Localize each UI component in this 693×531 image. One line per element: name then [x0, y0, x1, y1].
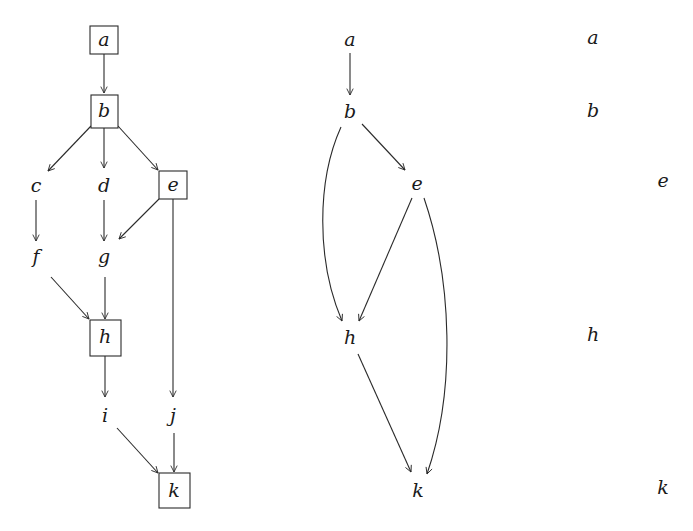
node-label-g: g — [98, 245, 110, 267]
reduced-graph: a b e h k — [323, 28, 447, 501]
edge-b-e — [362, 124, 405, 170]
node-label-e: e — [411, 172, 422, 194]
level-label-h: h — [587, 323, 599, 345]
node-label-c: c — [31, 174, 42, 196]
edge-f-h — [51, 277, 89, 319]
node-label-b: b — [344, 100, 356, 122]
node-label-k: k — [168, 479, 180, 501]
node-label-e: e — [167, 173, 178, 195]
level-label-e: e — [657, 169, 668, 191]
edge-h-k — [358, 354, 411, 472]
node-label-k: k — [412, 479, 424, 501]
full-graph: a b c d e f g h i j k — [30, 26, 190, 508]
reduced-graph-edges — [323, 53, 447, 474]
node-label-h: h — [99, 325, 111, 347]
node-label-a: a — [344, 28, 355, 50]
level-label-a: a — [587, 26, 598, 48]
node-label-j: j — [166, 404, 176, 426]
edge-e-k — [424, 198, 447, 474]
edge-b-c — [48, 126, 91, 171]
node-label-a: a — [98, 28, 109, 50]
levels-column: a b e h k — [587, 26, 669, 498]
edge-e-h — [359, 198, 412, 321]
level-label-k: k — [657, 476, 669, 498]
node-label-i: i — [102, 404, 108, 426]
level-label-b: b — [587, 99, 599, 121]
node-label-h: h — [344, 326, 356, 348]
node-label-d: d — [98, 174, 110, 196]
edge-e-g — [119, 199, 159, 239]
edge-b-h — [323, 127, 342, 321]
edge-i-k — [117, 428, 158, 473]
edge-b-e — [118, 126, 158, 170]
diagram-canvas: a b c d e f g h i j k a b e h k a b e h … — [0, 0, 693, 531]
node-label-b: b — [98, 99, 110, 121]
node-label-f: f — [30, 245, 42, 267]
